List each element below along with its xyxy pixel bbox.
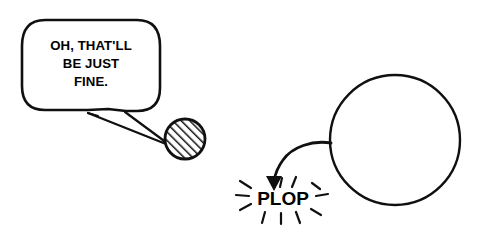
speech-bubble-line-2: BE JUST xyxy=(63,56,119,71)
comic-illustration: OH, THAT'LL BE JUST FINE. xyxy=(0,0,486,241)
impact-line-right-middle xyxy=(316,194,328,196)
speech-bubble-group: OH, THAT'LL BE JUST FINE. xyxy=(22,20,171,146)
impact-line-left-middle xyxy=(236,195,249,196)
impact-line-right-lower xyxy=(311,209,321,215)
impact-line-bottom-right xyxy=(296,212,300,223)
large-circle xyxy=(330,75,460,205)
impact-line-left-upper xyxy=(240,181,251,188)
speech-bubble-line-3: FINE. xyxy=(74,74,108,89)
curved-arrow-group xyxy=(266,142,331,191)
plop-group: PLOP xyxy=(236,177,328,224)
impact-line-top-right xyxy=(292,177,296,187)
impact-line-right-upper xyxy=(312,183,320,189)
curved-arrow-shaft xyxy=(274,142,331,181)
impact-line-top-left xyxy=(280,178,282,187)
speech-bubble-line-1: OH, THAT'LL xyxy=(50,38,132,53)
impact-line-left-lower xyxy=(240,204,251,210)
plop-text: PLOP xyxy=(257,188,309,209)
comic-panel: OH, THAT'LL BE JUST FINE. xyxy=(0,0,486,241)
speech-bubble-tail xyxy=(88,112,171,146)
hatched-circle-group xyxy=(165,119,205,159)
impact-line-bottom-left xyxy=(262,212,265,223)
